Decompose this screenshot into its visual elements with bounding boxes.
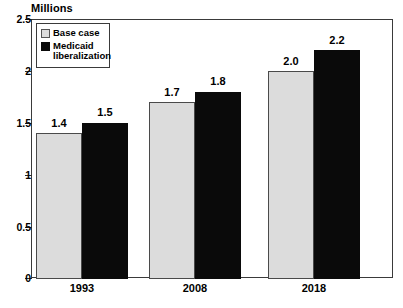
x-axis-label-2008: 2008 — [172, 283, 218, 294]
bar-value-label: 1.8 — [195, 76, 241, 87]
legend-item-base-case: Base case — [41, 28, 106, 38]
bar-value-label: 2.2 — [314, 35, 360, 46]
bar-value-label: 1.7 — [149, 87, 195, 98]
legend-label-medicaid-liberalization: Medicaid liberalization — [53, 41, 111, 61]
bar-base-case-1993[interactable] — [36, 133, 82, 279]
bar-chart: Millions 2.5 2 1.5 1 0.5 0 1.4 1.5 1.7 1… — [0, 0, 403, 308]
legend-swatch-base-case-icon — [41, 29, 50, 38]
legend-swatch-medicaid-liberalization-icon — [41, 42, 50, 51]
bar-value-label: 1.4 — [36, 118, 82, 129]
legend-label-base-case: Base case — [53, 28, 99, 38]
bar-value-label: 2.0 — [268, 56, 314, 67]
bar-value-label: 1.5 — [82, 107, 128, 118]
bar-base-case-2018[interactable] — [268, 71, 314, 279]
bar-base-case-2008[interactable] — [149, 102, 195, 279]
x-axis-label-1993: 1993 — [59, 283, 105, 294]
bar-medicaid-liberalization-2008[interactable] — [195, 92, 241, 279]
chart-legend: Base case Medicaid liberalization — [36, 23, 110, 68]
legend-item-medicaid-liberalization: Medicaid liberalization — [41, 41, 106, 61]
bar-medicaid-liberalization-2018[interactable] — [314, 50, 360, 279]
x-axis-label-2018: 2018 — [291, 283, 337, 294]
bar-medicaid-liberalization-1993[interactable] — [82, 123, 128, 279]
